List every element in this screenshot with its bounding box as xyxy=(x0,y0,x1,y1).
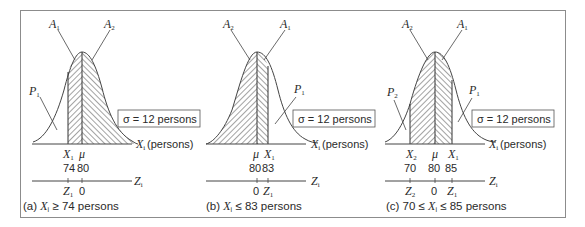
area-a2-shading-b xyxy=(206,52,257,144)
tick-zero-a: 0 xyxy=(79,185,85,197)
label-a2-a: A2 xyxy=(103,17,115,32)
sigma-label-a: σ = 12 persons xyxy=(123,113,197,125)
label-a2-c: A2 xyxy=(401,17,413,32)
tick-z1-b: Z1 xyxy=(263,184,274,199)
panel-a: A1 A2 P1 σ = 12 persons Xi (persons) X1 … xyxy=(23,17,200,213)
tick-z2-c: Z2 xyxy=(405,184,416,199)
tick-x2-c: X2 xyxy=(405,147,417,162)
tick-x1-b: X1 xyxy=(263,147,275,162)
area-a1-shading-b xyxy=(257,52,268,144)
tick-z1-c: Z1 xyxy=(447,184,458,199)
tick-mu-b: μ xyxy=(252,147,259,161)
z-axis-label-c: Zi xyxy=(489,174,498,189)
caption-c: (c) 70 ≤ Xi ≤ 85 persons xyxy=(386,199,507,213)
label-p2-c: P2 xyxy=(386,85,398,100)
label-a1-a: A1 xyxy=(48,17,60,32)
label-p1-a: P1 xyxy=(28,84,40,99)
sigma-label-c: σ = 12 persons xyxy=(477,113,551,125)
panel-b: A2 A1 P1 σ = 12 persons Xi (persons) μ X… xyxy=(206,17,375,213)
a2-pointer-c xyxy=(410,30,428,60)
x-axis-unit-b: (persons) xyxy=(322,138,368,150)
p1-pointer-c xyxy=(458,98,472,122)
z-axis-label-b: Zi xyxy=(311,174,320,189)
z-axis-label-a: Zi xyxy=(134,174,143,189)
tick-x1-a: X1 xyxy=(62,147,74,162)
area-a1-shading xyxy=(68,52,82,144)
caption-b: (b) Xi ≤ 83 persons xyxy=(206,199,302,213)
sigma-label-b: σ = 12 persons xyxy=(298,113,372,125)
a1-pointer-c xyxy=(442,30,462,60)
tick-z1-a: Z1 xyxy=(63,184,74,199)
label-p1-b: P1 xyxy=(293,82,305,97)
tick-zero-b: 0 xyxy=(253,185,259,197)
area-a1-shading-c xyxy=(435,52,452,144)
a1-pointer-b xyxy=(264,30,285,60)
x-axis-label-a: Xi xyxy=(135,137,145,152)
value-80-c: 80 xyxy=(428,162,440,174)
a2-pointer-b xyxy=(231,30,250,60)
label-p1-c: P1 xyxy=(468,83,480,98)
x-axis-unit-c: (persons) xyxy=(500,138,546,150)
a1-pointer-a xyxy=(58,30,75,60)
tick-zero-c: 0 xyxy=(431,185,437,197)
panel-c: A2 A1 P2 P1 σ = 12 persons Xi (persons) … xyxy=(385,17,554,213)
x-axis-unit-a: (persons) xyxy=(147,138,193,150)
caption-a: (a) Xi ≥ 74 persons xyxy=(23,199,119,213)
tick-mu-a: μ xyxy=(78,147,85,161)
value-74-a: 74 xyxy=(63,162,75,174)
label-a2-b: A2 xyxy=(222,17,234,32)
tick-mu-c: μ xyxy=(431,147,438,161)
normal-distribution-figure: A1 A2 P1 σ = 12 persons Xi (persons) X1 … xyxy=(0,0,585,227)
label-a1-b: A1 xyxy=(279,17,291,32)
value-70-c: 70 xyxy=(404,162,416,174)
label-a1-c: A1 xyxy=(456,17,468,32)
value-80-a: 80 xyxy=(77,162,89,174)
value-80-b: 80 xyxy=(249,162,261,174)
p1-pointer-a xyxy=(40,97,57,130)
value-85-c: 85 xyxy=(445,162,457,174)
tick-x1-c: X1 xyxy=(447,147,459,162)
a2-pointer-a xyxy=(92,30,110,60)
x-axis-label-b: Xi xyxy=(310,137,320,152)
p2-pointer-c xyxy=(394,100,406,130)
x-axis-label-c: Xi xyxy=(488,137,498,152)
value-83-b: 83 xyxy=(262,162,274,174)
area-a2-shading xyxy=(82,52,138,144)
